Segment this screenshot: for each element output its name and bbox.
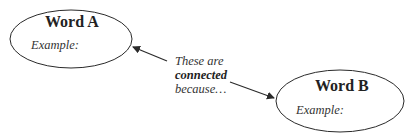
word-a-title: Word A [45,13,99,31]
connection-note: These are connected because… [175,54,227,96]
connection-line-3: because… [175,82,227,96]
word-b-example-label: Example: [296,103,344,118]
connection-line-1: These are [175,54,227,68]
arrow-to-word-a [133,47,167,61]
word-b-title: Word B [315,77,369,95]
arrow-to-word-b [230,82,274,98]
word-a-example-label: Example: [31,38,79,53]
connection-line-2: connected [175,68,227,82]
